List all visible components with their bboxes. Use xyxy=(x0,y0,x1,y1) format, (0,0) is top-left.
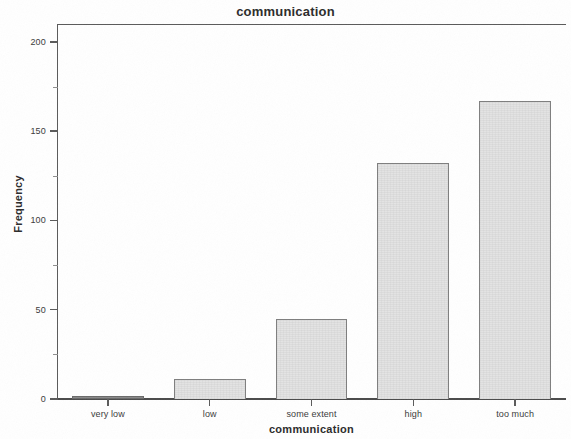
bar xyxy=(72,396,144,399)
y-tick-label: 0 xyxy=(6,394,46,404)
y-tick-label: 200 xyxy=(6,37,46,47)
y-tick-mark xyxy=(50,398,58,399)
y-tick-mark xyxy=(50,309,58,310)
y-tick-mark xyxy=(50,220,58,221)
x-tick-mark xyxy=(514,399,515,406)
bar-chart: communication Frequency communication 05… xyxy=(0,0,571,439)
bar xyxy=(479,101,551,399)
y-minor-tick xyxy=(53,265,58,266)
x-axis-title: communication xyxy=(57,423,566,435)
y-minor-tick xyxy=(53,87,58,88)
x-tick-label: too much xyxy=(455,409,571,419)
x-tick-mark xyxy=(209,399,210,406)
x-tick-mark xyxy=(413,399,414,406)
bar xyxy=(174,379,246,399)
y-tick-mark xyxy=(50,41,58,42)
bar xyxy=(276,319,348,399)
y-tick-mark xyxy=(50,130,58,131)
x-tick-mark xyxy=(107,399,108,406)
chart-title: communication xyxy=(0,4,571,19)
y-tick-label: 50 xyxy=(6,305,46,315)
bar xyxy=(377,163,449,399)
y-minor-tick xyxy=(53,354,58,355)
x-tick-mark xyxy=(311,399,312,406)
y-tick-label: 150 xyxy=(6,126,46,136)
y-tick-label: 100 xyxy=(6,215,46,225)
y-minor-tick xyxy=(53,176,58,177)
y-axis-title: Frequency xyxy=(12,144,24,264)
